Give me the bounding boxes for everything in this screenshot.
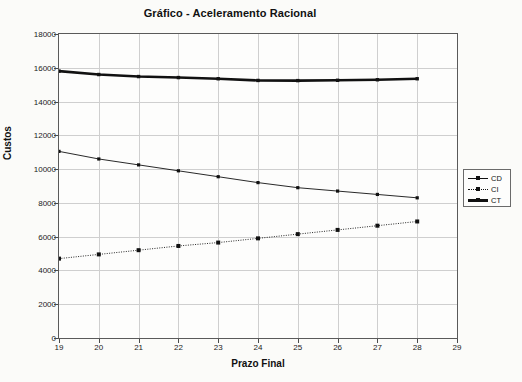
y-tick-label: 14000 — [0, 97, 56, 106]
legend-item-ci[interactable]: CI — [467, 184, 511, 195]
x-axis-title: Prazo Final — [58, 358, 458, 369]
series-lines — [59, 34, 457, 338]
x-tick-label: 28 — [413, 343, 422, 352]
data-point-ci — [216, 241, 220, 245]
data-point-ci — [375, 224, 379, 228]
data-point-cd — [256, 181, 259, 184]
data-point-ct — [296, 79, 299, 82]
plot-area — [58, 33, 458, 339]
x-tick-label: 29 — [453, 343, 462, 352]
x-tick-mark — [99, 339, 100, 343]
data-point-ct — [256, 79, 259, 82]
y-tick-label: 16000 — [0, 63, 56, 72]
data-point-cd — [137, 163, 140, 166]
data-point-ct — [416, 77, 419, 80]
x-tick-label: 24 — [254, 343, 263, 352]
x-tick-label: 20 — [94, 343, 103, 352]
x-tick-label: 25 — [293, 343, 302, 352]
legend-marker-cd — [476, 176, 480, 180]
data-point-ct — [217, 77, 220, 80]
y-tick-label: 0 — [0, 334, 56, 343]
chart-screenshot: Gráfico - Aceleramento Racional Custos P… — [0, 0, 522, 382]
data-point-cd — [416, 196, 419, 199]
data-point-cd — [296, 186, 299, 189]
data-point-cd — [97, 157, 100, 160]
data-point-ct — [59, 69, 61, 72]
data-point-ct — [336, 79, 339, 82]
data-point-cd — [59, 150, 61, 153]
data-point-ci — [256, 236, 260, 240]
x-tick-mark — [59, 339, 60, 343]
data-point-ci — [137, 248, 141, 252]
y-tick-label: 2000 — [0, 300, 56, 309]
data-point-cd — [376, 193, 379, 196]
x-tick-mark — [139, 339, 140, 343]
data-point-cd — [336, 189, 339, 192]
data-point-ci — [296, 232, 300, 236]
legend-label-cd: CD — [491, 174, 502, 184]
data-point-ci — [59, 257, 61, 261]
x-tick-label: 27 — [373, 343, 382, 352]
x-tick-mark — [417, 339, 418, 343]
data-point-cd — [217, 175, 220, 178]
legend-marker-ci — [476, 187, 480, 191]
x-tick-label: 21 — [134, 343, 143, 352]
legend-label-ct: CT — [491, 196, 501, 206]
x-tick-label: 23 — [214, 343, 223, 352]
y-tick-label: 12000 — [0, 131, 56, 140]
x-tick-mark — [338, 339, 339, 343]
data-point-ci — [336, 228, 340, 232]
series-line-ci — [59, 221, 417, 258]
x-tick-mark — [298, 339, 299, 343]
data-point-ct — [177, 76, 180, 79]
x-tick-mark — [218, 339, 219, 343]
x-tick-mark — [258, 339, 259, 343]
data-point-ci — [176, 244, 180, 248]
data-point-ct — [97, 73, 100, 76]
legend-label-ci: CI — [491, 185, 499, 195]
y-tick-label: 4000 — [0, 266, 56, 275]
y-tick-label: 8000 — [0, 198, 56, 207]
x-tick-label: 26 — [333, 343, 342, 352]
chart-title: Gráfico - Aceleramento Racional — [0, 7, 460, 19]
x-tick-mark — [377, 339, 378, 343]
legend-item-ct[interactable]: CT — [467, 195, 511, 206]
x-tick-mark — [178, 339, 179, 343]
y-tick-label: 10000 — [0, 165, 56, 174]
series-line-cd — [59, 151, 417, 197]
data-point-cd — [177, 169, 180, 172]
y-tick-label: 18000 — [0, 30, 56, 39]
x-tick-label: 22 — [174, 343, 183, 352]
series-line-ct — [59, 71, 417, 80]
data-point-ci — [415, 219, 419, 223]
data-point-ct — [376, 78, 379, 81]
x-tick-label: 19 — [55, 343, 64, 352]
legend-marker-ct — [476, 198, 480, 202]
legend: CD CI CT — [463, 169, 511, 207]
y-tick-label: 6000 — [0, 232, 56, 241]
x-tick-mark — [457, 339, 458, 343]
data-point-ct — [137, 75, 140, 78]
legend-item-cd[interactable]: CD — [467, 173, 511, 184]
data-point-ci — [97, 252, 101, 256]
